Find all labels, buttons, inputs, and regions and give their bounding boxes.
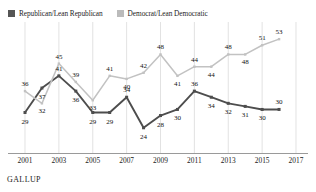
data-point-marker [278, 108, 281, 111]
data-point-marker [261, 44, 263, 46]
data-point-label: 29 [106, 119, 113, 126]
x-tick-label: 2017 [289, 157, 304, 164]
data-point-label: 44 [191, 57, 198, 64]
data-point-marker [92, 99, 94, 101]
series-line [25, 76, 279, 128]
x-tick-label: 2007 [119, 157, 134, 164]
x-tick-label: 2003 [51, 157, 66, 164]
legend-entry: Democrat/Lean Democratic [117, 10, 208, 17]
data-point-label: 29 [22, 119, 29, 126]
data-point-marker [125, 78, 127, 80]
x-axis-line [8, 153, 308, 154]
series-line [25, 39, 279, 103]
data-point-marker [227, 102, 230, 105]
data-point-label: 48 [242, 59, 249, 66]
data-point-label: 39 [72, 72, 79, 79]
data-point-marker [210, 96, 213, 99]
data-point-label: 41 [174, 81, 181, 88]
x-axis-tick-labels: 200120032005200720092011201320152017 [0, 157, 316, 171]
data-point-marker [193, 90, 196, 93]
data-point-label: 53 [276, 29, 283, 36]
plot-area: 2937413629293424283036343231303036324539… [0, 22, 316, 154]
x-tick-label: 2013 [221, 157, 236, 164]
x-tick-label: 2001 [18, 157, 33, 164]
data-point-marker [261, 108, 264, 111]
legend-label: Democrat/Lean Democratic [128, 10, 208, 17]
data-point-label: 28 [157, 122, 164, 129]
data-point-label: 41 [55, 66, 62, 73]
data-point-marker [40, 87, 43, 90]
data-point-label: 48 [157, 44, 164, 51]
data-point-label: 36 [72, 97, 79, 104]
data-point-marker [24, 90, 26, 92]
data-point-label: 30 [276, 99, 283, 106]
x-tick-label: 2005 [85, 157, 100, 164]
data-point-marker [159, 53, 161, 55]
data-point-label: 32 [38, 108, 45, 115]
data-point-label: 32 [225, 109, 232, 116]
data-point-marker [75, 81, 77, 83]
source-label: GALLUP [7, 175, 41, 184]
data-point-label: 51 [259, 35, 266, 42]
data-point-marker [125, 96, 128, 99]
square-swatch-icon [117, 10, 124, 17]
party-identification-line-chart: Republican/Lean RepublicanDemocrat/Lean … [0, 0, 316, 192]
chart-legend: Republican/Lean RepublicanDemocrat/Lean … [8, 7, 308, 21]
data-point-marker [24, 111, 27, 114]
plot-svg [0, 22, 316, 154]
data-point-marker [210, 65, 212, 67]
legend-label: Republican/Lean Republican [19, 10, 103, 17]
data-point-label: 29 [89, 119, 96, 126]
data-point-marker [142, 126, 145, 129]
data-point-marker [193, 65, 195, 67]
data-point-label: 45 [55, 54, 62, 61]
data-point-label: 48 [225, 44, 232, 51]
data-point-label: 30 [174, 115, 181, 122]
legend-entry: Republican/Lean Republican [8, 10, 103, 17]
data-point-marker [176, 108, 179, 111]
data-point-marker [244, 53, 246, 55]
data-point-label: 40 [123, 84, 130, 91]
data-point-marker [227, 53, 229, 55]
data-point-marker [176, 75, 178, 77]
x-tick-label: 2009 [153, 157, 168, 164]
square-swatch-icon [8, 10, 15, 17]
data-point-label: 44 [208, 72, 215, 79]
data-point-label: 42 [140, 63, 147, 70]
data-point-label: 36 [191, 81, 198, 88]
data-point-label: 30 [259, 115, 266, 122]
data-point-marker [108, 75, 110, 77]
x-tick-label: 2011 [187, 157, 202, 164]
data-point-label: 24 [140, 134, 147, 141]
data-point-label: 31 [242, 112, 249, 119]
data-point-label: 33 [89, 105, 96, 112]
data-point-marker [74, 90, 77, 93]
data-point-marker [244, 105, 247, 108]
data-point-marker [142, 72, 144, 74]
data-point-label: 36 [22, 81, 29, 88]
data-point-marker [159, 114, 162, 117]
data-point-label: 37 [38, 94, 45, 101]
data-point-marker [41, 102, 43, 104]
data-point-label: 41 [106, 66, 113, 73]
data-point-label: 34 [208, 103, 215, 110]
data-point-marker [278, 38, 280, 40]
data-point-marker [108, 111, 111, 114]
data-point-marker [57, 74, 60, 77]
x-tick-label: 2015 [255, 157, 270, 164]
